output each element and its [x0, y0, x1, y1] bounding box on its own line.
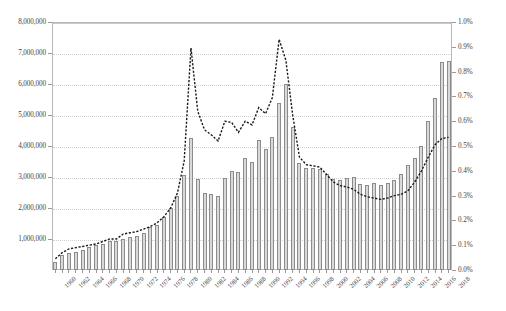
- chart-container: 8,000,0007,000,0006,000,0005,000,0004,00…: [0, 0, 506, 311]
- x-axis-tick: [340, 270, 341, 273]
- x-axis-tick: [68, 270, 69, 273]
- x-axis-tick-label: 1972: [145, 275, 159, 289]
- y-axis-right-tick-label: 0.8%: [458, 68, 473, 76]
- x-axis-tick: [346, 270, 347, 273]
- y-axis-right-tick: [452, 171, 456, 172]
- line-path-svg: [52, 22, 452, 270]
- y-axis-left-tick-label: 6,000,000: [0, 80, 46, 88]
- x-axis-tick: [414, 270, 415, 273]
- x-axis-tick-label: 1978: [185, 275, 199, 289]
- x-axis-tick: [421, 270, 422, 273]
- line-series: [52, 22, 452, 270]
- x-axis-tick: [231, 270, 232, 273]
- x-axis-tick-label: 1990: [267, 275, 281, 289]
- x-axis-tick: [353, 270, 354, 273]
- y-axis-right-tick: [452, 22, 456, 23]
- x-axis-tick: [299, 270, 300, 273]
- x-axis-tick: [313, 270, 314, 273]
- y-axis-right-tick-label: 0.9%: [458, 43, 473, 51]
- y-axis-left-tick-label: 4,000,000: [0, 142, 46, 150]
- y-axis-right-tick: [452, 220, 456, 221]
- line-path: [55, 39, 448, 258]
- x-axis-tick: [326, 270, 327, 273]
- x-axis-tick: [252, 270, 253, 273]
- x-axis-tick: [441, 270, 442, 273]
- x-axis-tick: [218, 270, 219, 273]
- x-axis-tick: [319, 270, 320, 273]
- x-axis-tick-label: 2016: [443, 275, 457, 289]
- x-axis-tick-label: 1982: [212, 275, 226, 289]
- x-axis-tick: [394, 270, 395, 273]
- x-axis-tick: [374, 270, 375, 273]
- x-axis-tick-label: 1970: [131, 275, 145, 289]
- x-axis-tick: [401, 270, 402, 273]
- x-axis-tick: [407, 270, 408, 273]
- x-axis-tick: [285, 270, 286, 273]
- x-axis-tick-label: 1986: [240, 275, 254, 289]
- y-axis-right-tick-label: 0.5%: [458, 142, 473, 150]
- x-axis-tick: [224, 270, 225, 273]
- x-axis-tick: [62, 270, 63, 273]
- x-axis-tick: [150, 270, 151, 273]
- x-axis-tick-label: 1998: [321, 275, 335, 289]
- y-axis-left-tick-label: 5,000,000: [0, 111, 46, 119]
- x-axis-tick-label: 2006: [375, 275, 389, 289]
- x-axis-tick: [211, 270, 212, 273]
- x-axis-tick: [333, 270, 334, 273]
- x-axis-tick: [245, 270, 246, 273]
- x-axis-tick: [292, 270, 293, 273]
- x-axis-tick: [272, 270, 273, 273]
- x-axis-tick: [448, 270, 449, 273]
- x-axis-tick-label: 1984: [226, 275, 240, 289]
- x-axis-tick: [82, 270, 83, 273]
- y-axis-left-tick-label: 2,000,000: [0, 204, 46, 212]
- x-axis-tick: [157, 270, 158, 273]
- x-axis-tick: [306, 270, 307, 273]
- x-axis-tick: [360, 270, 361, 273]
- x-axis-tick: [129, 270, 130, 273]
- x-axis-tick: [170, 270, 171, 273]
- x-axis-tick-label: 2014: [429, 275, 443, 289]
- x-axis-tick-label: 2000: [334, 275, 348, 289]
- x-axis-tick: [102, 270, 103, 273]
- x-axis-tick-label: 2004: [362, 275, 376, 289]
- y-axis-right-tick: [452, 47, 456, 48]
- x-axis-tick-label: 2012: [416, 275, 430, 289]
- x-axis-tick-label: 1988: [253, 275, 267, 289]
- y-axis-right-tick: [452, 96, 456, 97]
- x-axis-tick-label: 1966: [104, 275, 118, 289]
- x-axis-tick: [177, 270, 178, 273]
- x-axis-tick: [96, 270, 97, 273]
- x-axis-tick: [265, 270, 266, 273]
- y-axis-right-tick-label: 0.2%: [458, 216, 473, 224]
- x-axis-tick: [143, 270, 144, 273]
- x-axis-tick: [258, 270, 259, 273]
- y-axis-right-tick: [452, 270, 456, 271]
- y-axis-right-tick: [452, 245, 456, 246]
- x-axis-tick: [238, 270, 239, 273]
- x-axis-tick: [116, 270, 117, 273]
- y-axis-right-tick: [452, 72, 456, 73]
- x-axis-tick-label: 1992: [280, 275, 294, 289]
- x-axis-tick: [279, 270, 280, 273]
- x-axis-tick: [75, 270, 76, 273]
- y-axis-left-tick-label: 1,000,000: [0, 235, 46, 243]
- x-axis-tick-label: 1964: [90, 275, 104, 289]
- x-axis-tick: [123, 270, 124, 273]
- y-axis-left-tick-label: 3,000,000: [0, 173, 46, 181]
- y-axis-right-tick-label: 0.6%: [458, 117, 473, 125]
- x-axis-tick-label: 2002: [348, 275, 362, 289]
- x-axis-tick-label: 1968: [117, 275, 131, 289]
- x-axis-tick-label: 1974: [158, 275, 172, 289]
- y-axis-right-tick: [452, 146, 456, 147]
- y-axis-left-tick-label: 7,000,000: [0, 49, 46, 57]
- x-axis-tick: [136, 270, 137, 273]
- x-axis-tick: [367, 270, 368, 273]
- y-axis-right-tick-label: 0.0%: [458, 266, 473, 274]
- x-axis-tick-label: 1960: [63, 275, 77, 289]
- x-axis-tick: [197, 270, 198, 273]
- x-axis-tick-label: 1996: [307, 275, 321, 289]
- x-axis-tick-label: 1994: [294, 275, 308, 289]
- y-axis-right-tick-label: 0.3%: [458, 192, 473, 200]
- x-axis-tick: [89, 270, 90, 273]
